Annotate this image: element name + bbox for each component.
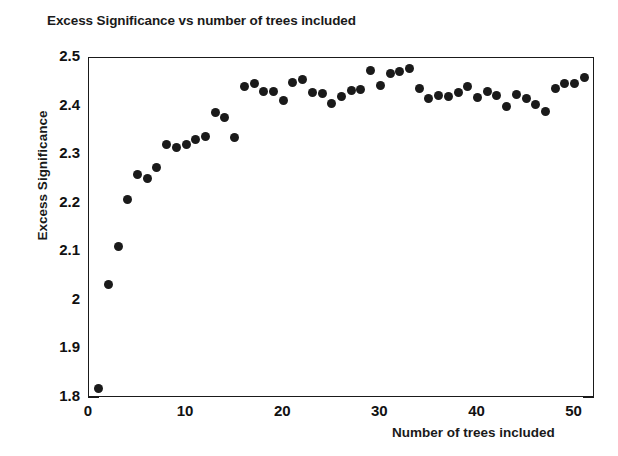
data-point — [279, 96, 288, 105]
x-tick-label: 0 — [63, 402, 113, 419]
data-point — [522, 94, 531, 103]
y-tick-label: 1.9 — [20, 338, 80, 355]
data-point — [250, 79, 259, 88]
data-point — [570, 79, 579, 88]
data-point — [337, 92, 346, 101]
data-point — [454, 88, 463, 97]
data-point — [492, 91, 501, 100]
x-tick-label: 40 — [451, 402, 501, 419]
data-point — [541, 107, 550, 116]
data-point — [366, 66, 375, 75]
data-point — [502, 102, 511, 111]
data-point — [269, 87, 278, 96]
data-point — [551, 84, 560, 93]
data-point — [386, 69, 395, 78]
data-point — [444, 92, 453, 101]
data-point — [288, 78, 297, 87]
data-point — [220, 113, 229, 122]
data-point — [162, 140, 171, 149]
data-point — [133, 170, 142, 179]
data-point — [172, 143, 181, 152]
y-tick-label: 2.2 — [20, 193, 80, 210]
data-point — [405, 64, 414, 73]
data-point — [143, 174, 152, 183]
y-tick-label: 2.3 — [20, 144, 80, 161]
data-point — [395, 67, 404, 76]
data-point — [298, 75, 307, 84]
y-tick-label: 2.1 — [20, 241, 80, 258]
data-point — [308, 88, 317, 97]
data-point — [240, 82, 249, 91]
data-point — [123, 195, 132, 204]
data-point — [211, 108, 220, 117]
data-point — [376, 81, 385, 90]
data-point — [94, 384, 103, 393]
x-tick-label: 30 — [354, 402, 404, 419]
data-point — [424, 94, 433, 103]
data-point — [327, 99, 336, 108]
y-tick-label: 2.5 — [20, 47, 80, 64]
data-point — [230, 133, 239, 142]
data-point — [580, 73, 589, 82]
data-point — [415, 84, 424, 93]
data-point — [512, 90, 521, 99]
y-tick-label: 2 — [20, 290, 80, 307]
data-point — [191, 135, 200, 144]
x-tick-label: 50 — [549, 402, 599, 419]
y-tick-major-right — [583, 397, 594, 398]
x-tick-label: 10 — [160, 402, 210, 419]
data-point — [483, 87, 492, 96]
data-point — [473, 93, 482, 102]
data-point — [259, 87, 268, 96]
data-point — [463, 82, 472, 91]
data-point — [531, 100, 540, 109]
data-point — [434, 91, 443, 100]
y-tick-label: 2.4 — [20, 96, 80, 113]
data-point — [104, 280, 113, 289]
y-tick-major — [88, 397, 99, 398]
data-point — [347, 86, 356, 95]
data-point — [114, 242, 123, 251]
data-point — [560, 79, 569, 88]
x-tick-label: 20 — [257, 402, 307, 419]
data-point — [356, 85, 365, 94]
chart-title: Excess Significance vs number of trees i… — [47, 13, 356, 28]
x-axis-title: Number of trees included — [392, 425, 555, 440]
data-point — [182, 140, 191, 149]
data-point — [318, 89, 327, 98]
chart-canvas: Excess Significance vs number of trees i… — [0, 0, 618, 456]
data-point — [201, 132, 210, 141]
plot-area — [88, 57, 594, 397]
scatter-series — [89, 58, 593, 396]
data-point — [152, 163, 161, 172]
